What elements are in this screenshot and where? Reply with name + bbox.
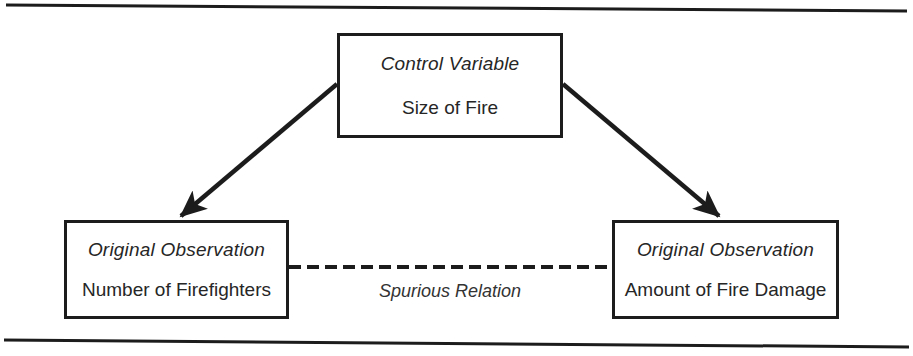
node-right-role: Original Observation — [637, 239, 814, 261]
node-original-observation-left: Original Observation Number of Firefight… — [64, 220, 289, 319]
bottom-rule — [4, 340, 909, 347]
node-left-role: Original Observation — [88, 239, 265, 261]
edge-label-spurious-relation: Spurious Relation — [288, 281, 612, 302]
diagram-figure: Control Variable Size of Fire Original O… — [0, 0, 913, 356]
arrow-control-to-left — [181, 84, 337, 216]
node-control-name: Size of Fire — [402, 97, 498, 119]
node-control-variable: Control Variable Size of Fire — [337, 33, 563, 138]
node-control-role: Control Variable — [381, 53, 520, 75]
node-original-observation-right: Original Observation Amount of Fire Dama… — [612, 220, 839, 319]
node-left-name: Number of Firefighters — [82, 279, 271, 301]
node-right-name: Amount of Fire Damage — [625, 279, 827, 301]
arrow-control-to-right — [563, 84, 719, 216]
top-rule — [6, 5, 907, 11]
